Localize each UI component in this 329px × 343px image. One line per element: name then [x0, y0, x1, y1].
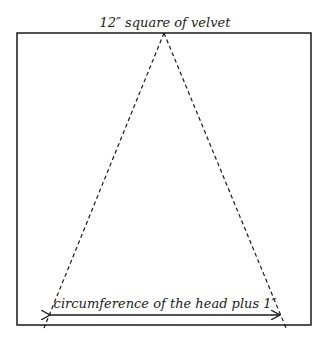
triangle-right-edge [164, 33, 286, 328]
base-label: circumference of the head plus 1″ [54, 296, 277, 311]
title-label: 12″ square of velvet [100, 15, 232, 30]
triangle-left-edge [44, 33, 164, 328]
velvet-pattern-diagram: 12″ square of velvet circumference of th… [0, 0, 329, 343]
